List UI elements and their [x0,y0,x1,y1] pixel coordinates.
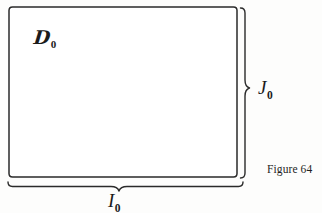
height-label-letter: J [258,77,266,98]
height-label-subscript: 0 [267,89,273,101]
width-label: I0 [108,191,120,210]
domain-label-subscript: 0 [51,38,57,50]
height-label: J0 [258,78,272,97]
right-vertical-brace [241,8,250,178]
figure-canvas: D0 J0 I0 Figure 64 [0,0,322,213]
figure-caption: Figure 64 [267,164,312,176]
domain-label-letter: D [33,28,52,47]
width-label-subscript: 0 [115,202,121,214]
domain-label: D0 [34,28,56,47]
bottom-horizontal-brace [8,182,243,191]
width-label-letter: I [108,190,114,211]
